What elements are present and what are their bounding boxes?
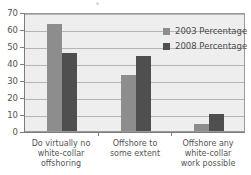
y-axis-tick-label: 70 (2, 9, 18, 18)
y-axis-tick-label: 10 (2, 111, 18, 120)
legend-label-2008: 2008 Percentage (175, 42, 247, 51)
y-axis-tick (20, 47, 24, 48)
bar (194, 124, 209, 131)
bar (121, 75, 136, 131)
y-axis-tick (20, 115, 24, 116)
legend-item-2008: 2008 Percentage (163, 41, 247, 52)
chart-legend: 2003 Percentage 2008 Percentage (163, 26, 247, 56)
bar (47, 24, 62, 131)
legend-swatch-2008 (163, 43, 170, 50)
bar (209, 114, 224, 131)
y-axis-tick (20, 132, 24, 133)
y-axis-tick-label: 50 (2, 43, 18, 52)
x-axis-category-label: Offshore to some extent (98, 139, 172, 159)
y-axis-tick (20, 81, 24, 82)
y-axis-tick-label: 60 (2, 26, 18, 35)
y-axis-line (24, 13, 25, 132)
x-axis-category-label: Do virtually no white-collar offshoring (24, 139, 98, 169)
x-axis-line (24, 132, 245, 133)
y-axis-tick-label: 0 (2, 128, 18, 137)
y-axis-tick (20, 13, 24, 14)
x-axis-tick (171, 132, 172, 136)
image-speck (96, 2, 99, 5)
bar (136, 56, 151, 131)
y-axis-tick (20, 98, 24, 99)
y-axis-tick-label: 40 (2, 60, 18, 69)
y-axis-tick-label: 30 (2, 77, 18, 86)
y-axis-tick (20, 30, 24, 31)
legend-label-2003: 2003 Percentage (175, 27, 247, 36)
y-axis-tick (20, 64, 24, 65)
bar-chart: 010203040506070 Do virtually no white-co… (0, 0, 251, 175)
x-axis-category-label: Offshore any white-collar work possible (171, 139, 245, 169)
bar (62, 53, 77, 131)
y-axis-tick-label: 20 (2, 94, 18, 103)
legend-swatch-2003 (163, 28, 170, 35)
x-axis-tick (98, 132, 99, 136)
legend-item-2003: 2003 Percentage (163, 26, 247, 37)
